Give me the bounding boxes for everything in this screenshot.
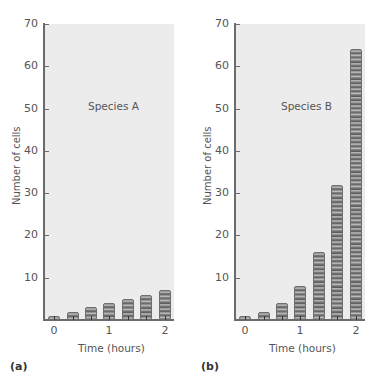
bar [103,303,115,320]
bar-stem [146,316,147,320]
species-label-a: Species A [88,100,139,112]
bar [258,312,270,320]
bar-stem [165,316,166,320]
y-tick-label: 40 [205,144,229,157]
x-tick-label: 0 [46,324,62,337]
y-tick-label: 50 [205,102,229,115]
bar-stem [245,316,246,320]
y-tick [235,278,240,279]
y-tick [235,66,240,67]
y-tick-label: 10 [205,271,229,284]
y-tick [44,109,49,110]
panel-label-a: (a) [10,360,27,373]
panel-label-b: (b) [201,360,219,373]
y-axis-a [43,23,45,321]
y-tick [235,235,240,236]
plot-area-b [236,24,365,320]
panel-b: Number of cells Species B Time (hours) (… [191,0,377,392]
bar [140,295,152,320]
y-tick-label: 70 [14,17,38,30]
y-tick [235,109,240,110]
bar-stem [73,316,74,320]
y-tick-label: 30 [205,186,229,199]
panel-a: Number of cells Species A Time (hours) (… [0,0,190,392]
bar [85,307,97,320]
y-tick [44,193,49,194]
y-tick-label: 70 [205,17,229,30]
y-tick [44,66,49,67]
y-tick-label: 40 [14,144,38,157]
bar [350,49,362,320]
y-tick [44,235,49,236]
y-axis-b [234,23,236,321]
bar-stem [319,316,320,320]
bar [313,252,325,320]
y-tick-label: 20 [205,228,229,241]
y-tick-label: 50 [14,102,38,115]
y-tick [44,278,49,279]
bar [276,303,288,320]
bar-stem [128,316,129,320]
species-label-b: Species B [281,100,332,112]
x-tick-label: 1 [292,324,308,337]
bar-stem [337,316,338,320]
y-tick [235,24,240,25]
bar [67,312,79,320]
x-tick-label: 1 [101,324,117,337]
bar [331,185,343,320]
bar [239,316,251,320]
y-tick-label: 60 [205,59,229,72]
y-tick [44,24,49,25]
bar-stem [109,316,110,320]
y-tick [235,151,240,152]
x-tick-label: 0 [237,324,253,337]
y-tick [235,193,240,194]
bar [122,299,134,320]
bar-stem [356,316,357,320]
bar-stem [54,316,55,320]
plot-area-a [45,24,174,320]
bar-stem [91,316,92,320]
y-tick-label: 20 [14,228,38,241]
bar-stem [264,316,265,320]
y-tick-label: 60 [14,59,38,72]
x-tick-label: 2 [348,324,364,337]
bar [294,286,306,320]
bar [159,290,171,320]
bar [48,316,60,320]
y-tick [44,151,49,152]
x-axis-title-b: Time (hours) [269,342,336,354]
x-axis-title-a: Time (hours) [78,342,145,354]
y-tick-label: 30 [14,186,38,199]
bar-stem [282,316,283,320]
x-tick-label: 2 [157,324,173,337]
bar-stem [300,316,301,320]
y-tick-label: 10 [14,271,38,284]
